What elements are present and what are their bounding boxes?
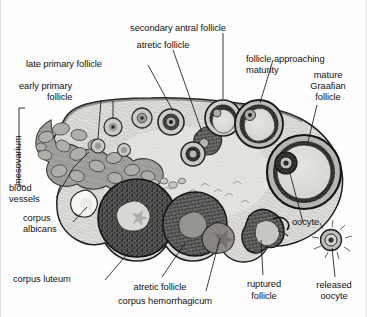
label-secondary-antral-follicle: secondary antral follicle <box>93 23 263 34</box>
corpus-luteum-core <box>117 201 151 231</box>
label-follicle-approaching-maturity-line1: follicle approaching <box>246 54 325 65</box>
small-antral-follicle <box>181 142 205 166</box>
oocyte-nucleus <box>328 237 333 242</box>
late-primary-follicle <box>158 109 184 135</box>
label-blood-vessels-line1: blood <box>9 183 32 194</box>
label-early-primary-follicle-line1: early primary <box>19 81 72 92</box>
label-mature-graafian-follicle-line3: follicle <box>296 92 360 103</box>
label-mesovarium: mesovarium <box>13 135 23 186</box>
label-mature-graafian-follicle-line1: mature <box>296 70 360 81</box>
label-released-oocyte-line2: oocyte <box>304 291 364 302</box>
label-corpus-albicans-line2: albicans <box>23 224 57 235</box>
corpus-albicans <box>71 190 98 217</box>
label-ruptured-follicle-line2: follicle <box>233 291 295 302</box>
graafian-oocyte <box>275 152 297 174</box>
label-follicle-approaching-maturity-line2: maturity <box>246 65 279 76</box>
label-ruptured-follicle-line1: ruptured <box>233 279 295 290</box>
label-oocyte: oocyte <box>292 217 319 228</box>
label-released-oocyte-line1: released <box>304 280 364 291</box>
mature-graafian-follicle <box>267 135 341 209</box>
label-corpus-hemorrhagicum: corpus hemorrhagicum <box>90 296 240 307</box>
label-corpus-luteum: corpus luteum <box>13 274 71 285</box>
label-corpus-albicans-line1: corpus <box>23 213 51 224</box>
ovary-histology-figure: secondary antral follicle atretic follic… <box>0 0 367 317</box>
label-mature-graafian-follicle-line2: Graafian <box>296 81 360 92</box>
follicle-approaching-maturity <box>235 100 283 148</box>
label-atretic-follicle-bottom: atretic follicle <box>105 282 215 293</box>
label-blood-vessels-line2: vessels <box>9 194 40 205</box>
label-atretic-follicle-top: atretic follicle <box>93 40 233 51</box>
label-late-primary-follicle: late primary follicle <box>26 59 102 70</box>
label-early-primary-follicle-line2: follicle <box>47 92 72 103</box>
